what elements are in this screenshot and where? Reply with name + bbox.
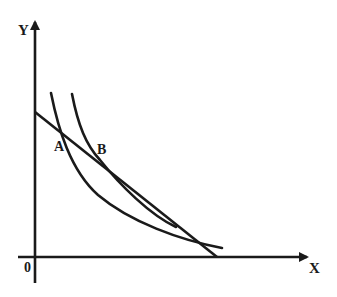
indifference-curve-outer <box>72 94 176 227</box>
x-axis-label: X <box>309 260 320 276</box>
point-b-label: B <box>97 142 106 157</box>
point-a-label: A <box>54 139 65 154</box>
diagram-canvas: Y X 0 A B <box>0 0 337 297</box>
y-axis-label: Y <box>18 22 29 38</box>
origin-label: 0 <box>24 260 31 275</box>
